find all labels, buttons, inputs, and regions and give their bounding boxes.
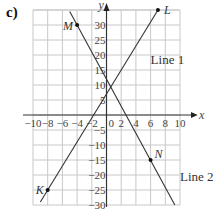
line-annotation-1: Line 1 — [151, 52, 185, 67]
point-N — [149, 158, 153, 162]
y-tick-label: −10 — [88, 139, 106, 151]
y-axis-label: y — [98, 0, 105, 12]
y-tick-label: −25 — [88, 184, 106, 196]
y-tick-label: −30 — [88, 199, 106, 211]
point-L — [156, 8, 160, 12]
coordinate-plot: xy−10−8−6−4−20246810−30−25−20−15−10−5510… — [0, 0, 221, 216]
x-tick-label: 10 — [175, 117, 187, 129]
x-axis-arrow-icon — [191, 112, 198, 118]
point-label-N: N — [154, 147, 164, 161]
x-tick-label: 0 — [109, 117, 115, 129]
x-tick-label: −8 — [42, 117, 54, 129]
point-label-M: M — [62, 19, 74, 33]
series-line-2 — [70, 12, 175, 206]
line-annotation-2: Line 2 — [180, 169, 214, 184]
y-tick-label: 10 — [95, 79, 107, 91]
x-axis-label: x — [198, 108, 205, 122]
y-tick-label: 30 — [95, 19, 107, 31]
x-tick-label: 6 — [148, 117, 154, 129]
point-K — [46, 188, 50, 192]
y-tick-label: −20 — [88, 169, 106, 181]
point-label-K: K — [35, 183, 45, 197]
x-tick-label: −4 — [71, 117, 83, 129]
x-tick-label: 4 — [133, 117, 139, 129]
x-tick-label: −10 — [24, 117, 42, 129]
x-tick-label: 8 — [163, 117, 169, 129]
x-tick-label: 2 — [118, 117, 124, 129]
y-axis-arrow-icon — [104, 3, 110, 11]
x-tick-label: −6 — [57, 117, 69, 129]
point-M — [75, 23, 79, 27]
y-tick-label: −5 — [94, 124, 106, 136]
y-tick-label: 25 — [95, 34, 107, 46]
point-label-L: L — [163, 3, 171, 17]
y-tick-label: −15 — [88, 154, 106, 166]
